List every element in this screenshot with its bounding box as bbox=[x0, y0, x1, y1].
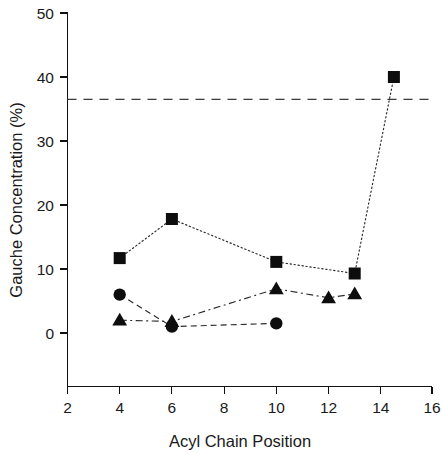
data-point-triangle bbox=[165, 314, 180, 327]
series-line-squares bbox=[120, 77, 394, 274]
series-markers-squares bbox=[114, 71, 400, 280]
x-tick-label-4: 4 bbox=[115, 399, 124, 416]
x-tick-label-14: 14 bbox=[372, 399, 390, 416]
y-tick-label-20: 20 bbox=[37, 197, 55, 214]
chart-figure: 0 10 20 30 40 50 2 4 6 8 10 12 14 bbox=[0, 0, 443, 454]
y-axis-tick-labels: 0 10 20 30 40 50 bbox=[37, 5, 55, 342]
series-lines bbox=[120, 77, 394, 327]
y-axis-title: Gauche Concentration (%) bbox=[7, 102, 25, 297]
x-tick-label-16: 16 bbox=[423, 399, 440, 416]
data-point-triangle bbox=[269, 281, 284, 294]
axes bbox=[67, 13, 432, 387]
y-axis-ticks bbox=[60, 13, 68, 333]
data-point-square bbox=[388, 71, 400, 83]
data-point-circle bbox=[270, 317, 282, 329]
x-axis-ticks bbox=[68, 387, 433, 395]
data-point-square bbox=[166, 213, 178, 225]
x-tick-label-10: 10 bbox=[268, 399, 286, 416]
y-tick-label-0: 0 bbox=[45, 325, 54, 342]
y-tick-label-40: 40 bbox=[37, 69, 55, 86]
data-point-triangle bbox=[112, 313, 127, 326]
y-tick-label-50: 50 bbox=[37, 5, 55, 22]
y-tick-label-10: 10 bbox=[37, 261, 55, 278]
gauche-concentration-line-chart: 0 10 20 30 40 50 2 4 6 8 10 12 14 bbox=[0, 0, 443, 454]
x-tick-label-6: 6 bbox=[168, 399, 177, 416]
data-point-square bbox=[270, 256, 282, 268]
series-markers-triangles bbox=[112, 281, 362, 327]
y-tick-label-30: 30 bbox=[37, 133, 55, 150]
data-point-circle bbox=[114, 288, 126, 300]
series-markers-circles bbox=[114, 288, 283, 332]
data-point-triangle bbox=[347, 287, 362, 300]
x-tick-label-12: 12 bbox=[320, 399, 337, 416]
x-tick-label-2: 2 bbox=[63, 399, 72, 416]
data-point-square bbox=[114, 252, 126, 264]
x-axis-tick-labels: 2 4 6 8 10 12 14 16 bbox=[63, 399, 440, 416]
data-point-square bbox=[349, 268, 361, 280]
x-axis-title: Acyl Chain Position bbox=[169, 432, 311, 450]
x-tick-label-8: 8 bbox=[220, 399, 229, 416]
series-line-circles bbox=[120, 295, 277, 327]
